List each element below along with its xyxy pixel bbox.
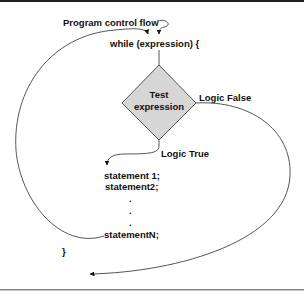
- program-control-flow-label: Program control flow: [63, 17, 159, 28]
- bottom-border: [0, 289, 304, 291]
- ellipsis-dot-1: .: [129, 193, 132, 204]
- statement-2: statement2;: [105, 181, 158, 192]
- logic-true-label: Logic True: [161, 148, 209, 159]
- statement-n: statementN;: [104, 229, 159, 240]
- entry-arrow: [157, 20, 168, 34]
- while-loop-diagram: Program control flow while (expression) …: [0, 0, 304, 299]
- logic-true-arrow: [107, 140, 159, 165]
- ellipsis-dot-3: .: [129, 217, 132, 228]
- test-label-line1: Test: [150, 89, 170, 100]
- test-label-line2: expression: [134, 101, 184, 112]
- ellipsis-dot-2: .: [129, 205, 132, 216]
- logic-false-label: Logic False: [199, 92, 251, 103]
- while-header: while (expression) {: [109, 38, 200, 49]
- top-border: [0, 0, 304, 2]
- statement-1: statement 1;: [104, 170, 160, 181]
- closing-brace: }: [62, 246, 66, 257]
